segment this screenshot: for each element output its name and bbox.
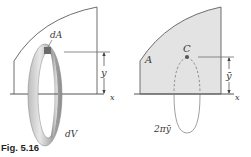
y-label: y	[100, 67, 107, 78]
centroid-path-solid	[174, 94, 200, 133]
shaded-area-A	[140, 7, 221, 94]
x-axis-label-left: x	[110, 93, 115, 102]
ring-volume-element	[28, 44, 62, 146]
area-element-square	[44, 47, 51, 54]
ybar-arrow-up-icon	[227, 57, 230, 61]
y-arrow-up-icon	[102, 52, 105, 56]
figure-caption: Fig. 5.16	[1, 142, 39, 153]
x-axis-label-right: x	[235, 93, 240, 102]
right-panel: ȳ A C x 2πȳ	[134, 7, 240, 134]
y-arrow-down-icon	[102, 90, 105, 94]
centroid-C-label: C	[183, 43, 191, 54]
ybar-label: ȳ	[225, 70, 232, 81]
ybar-arrow-down-icon	[227, 90, 230, 94]
area-A-label: A	[144, 54, 152, 65]
dA-label: dA	[50, 30, 63, 40]
centroid-dot	[185, 55, 189, 59]
figure-canvas: y dA x dV ȳ A C x 2πȳ Fig. 5.16	[0, 0, 251, 157]
dV-label: dV	[65, 129, 79, 139]
path-length-label: 2πȳ	[153, 124, 172, 134]
left-panel: y dA x dV	[10, 7, 115, 146]
